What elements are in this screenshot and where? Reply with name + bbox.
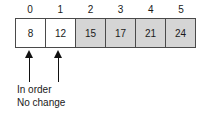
array-diagram: 0 1 2 3 4 5 8 12 15 17 21 24 In order No… xyxy=(0,0,207,114)
index-label-5: 5 xyxy=(166,3,196,17)
arrow-shaft xyxy=(29,57,30,82)
index-label-row: 0 1 2 3 4 5 xyxy=(15,3,196,17)
caption: In order No change xyxy=(17,83,137,109)
index-label-2: 2 xyxy=(75,3,105,17)
array-cell-2: 15 xyxy=(76,19,106,47)
index-label-0: 0 xyxy=(15,3,45,17)
up-arrow-icon-index-1 xyxy=(54,50,63,82)
arrow-shaft xyxy=(58,57,59,82)
index-label-3: 3 xyxy=(106,3,136,17)
caption-line-2: No change xyxy=(17,96,137,109)
array-cell-1: 12 xyxy=(46,19,76,47)
index-label-1: 1 xyxy=(45,3,75,17)
array-cell-5: 24 xyxy=(166,19,195,47)
array-cell-3: 17 xyxy=(106,19,136,47)
array-cell-0: 8 xyxy=(16,19,46,47)
up-arrow-icon-index-0 xyxy=(25,50,34,82)
array-cell-4: 21 xyxy=(136,19,166,47)
array-cells-row: 8 12 15 17 21 24 xyxy=(15,18,196,48)
index-label-4: 4 xyxy=(136,3,166,17)
caption-line-1: In order xyxy=(17,83,137,96)
